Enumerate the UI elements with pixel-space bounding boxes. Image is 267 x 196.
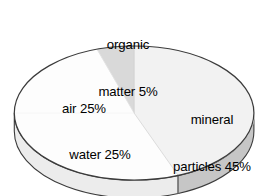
slice-label-organic-matter-line1: organic bbox=[68, 37, 188, 53]
slice-label-mineral-particles: mineral particles 45% bbox=[160, 81, 264, 196]
slice-label-mineral-particles-line1: mineral bbox=[160, 112, 264, 128]
slice-label-air-line1: air 25% bbox=[42, 101, 126, 117]
slice-label-mineral-particles-line2: particles 45% bbox=[160, 159, 264, 175]
slice-label-water-line1: water 25% bbox=[48, 147, 152, 163]
slice-label-water: water 25% bbox=[48, 116, 152, 194]
pie-chart-figure: organic matter 5% mineral particles 45% … bbox=[0, 0, 267, 196]
